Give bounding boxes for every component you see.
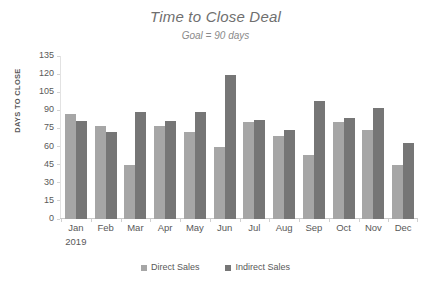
x-axis-labels: JanFebMarAprMayJunJulAugSepOctNovDec xyxy=(61,222,418,234)
y-tick-mark xyxy=(57,219,60,220)
y-tick-mark xyxy=(57,200,60,201)
bar-nov-indirect-sales xyxy=(373,108,384,219)
bar-group xyxy=(240,56,270,219)
bar-group xyxy=(388,56,418,219)
bar-dec-direct-sales xyxy=(392,165,403,219)
bar-aug-indirect-sales xyxy=(284,130,295,219)
bar-jan-indirect-sales xyxy=(76,121,87,219)
legend-label: Direct Sales xyxy=(151,262,200,273)
y-tick-label: 60 xyxy=(44,141,54,152)
bar-aug-direct-sales xyxy=(273,136,284,219)
legend-item-indirect-sales[interactable]: Indirect Sales xyxy=(225,262,290,273)
y-tick-label: 15 xyxy=(44,195,54,206)
legend-label: Indirect Sales xyxy=(235,262,290,273)
y-tick-mark xyxy=(57,146,60,147)
y-tick-mark xyxy=(57,56,60,57)
legend-item-direct-sales[interactable]: Direct Sales xyxy=(141,262,200,273)
y-tick-label: 135 xyxy=(39,50,54,61)
y-tick-label: 120 xyxy=(39,68,54,79)
bar-sep-direct-sales xyxy=(303,155,314,219)
x-axis-year-label: 2019 xyxy=(61,236,91,248)
x-axis-label-sep: Sep xyxy=(299,222,329,234)
plot-area: 1351201059075604530150 xyxy=(60,56,418,219)
y-tick-mark xyxy=(57,74,60,75)
bar-jan-direct-sales xyxy=(65,114,76,219)
bar-group xyxy=(61,56,91,219)
bar-may-indirect-sales xyxy=(195,112,206,219)
x-axis-label-jul: Jul xyxy=(240,222,270,234)
chart-container: Time to Close Deal Goal = 90 days DAYS T… xyxy=(0,0,431,288)
chart-title: Time to Close Deal xyxy=(0,8,431,26)
bar-sep-indirect-sales xyxy=(314,101,325,219)
x-axis-label-may: May xyxy=(180,222,210,234)
bar-oct-direct-sales xyxy=(333,122,344,219)
bar-apr-indirect-sales xyxy=(165,121,176,219)
bar-groups xyxy=(61,56,418,219)
bar-jun-indirect-sales xyxy=(225,75,236,219)
bar-group xyxy=(299,56,329,219)
bar-group xyxy=(210,56,240,219)
legend-swatch-icon xyxy=(225,265,231,271)
y-tick-label: 0 xyxy=(49,213,54,224)
bar-group xyxy=(269,56,299,219)
y-tick-label: 45 xyxy=(44,159,54,170)
y-tick-label: 30 xyxy=(44,177,54,188)
chart-subtitle: Goal = 90 days xyxy=(0,29,431,43)
bar-jul-direct-sales xyxy=(243,122,254,219)
x-axis-label-jan: Jan xyxy=(61,222,91,234)
x-axis-label-aug: Aug xyxy=(269,222,299,234)
y-tick-mark xyxy=(57,110,60,111)
y-tick-label: 105 xyxy=(39,86,54,97)
bar-oct-indirect-sales xyxy=(344,118,355,219)
bar-dec-indirect-sales xyxy=(403,143,414,219)
title-block: Time to Close Deal Goal = 90 days xyxy=(0,8,431,43)
x-axis-label-oct: Oct xyxy=(329,222,359,234)
bar-jul-indirect-sales xyxy=(254,120,265,219)
bar-apr-direct-sales xyxy=(154,126,165,219)
bar-group xyxy=(180,56,210,219)
y-tick-mark xyxy=(57,182,60,183)
bar-feb-indirect-sales xyxy=(106,132,117,219)
bar-feb-direct-sales xyxy=(95,126,106,219)
y-tick-label: 90 xyxy=(44,104,54,115)
x-axis-label-feb: Feb xyxy=(91,222,121,234)
bar-mar-indirect-sales xyxy=(135,112,146,219)
y-tick-mark xyxy=(57,92,60,93)
bar-group xyxy=(121,56,151,219)
bar-group xyxy=(359,56,389,219)
bar-group xyxy=(329,56,359,219)
y-tick-label: 75 xyxy=(44,122,54,133)
bar-group xyxy=(91,56,121,219)
x-axis-label-mar: Mar xyxy=(121,222,151,234)
x-axis-label-dec: Dec xyxy=(388,222,418,234)
legend-swatch-icon xyxy=(141,265,147,271)
y-tick-mark xyxy=(57,128,60,129)
y-tick-mark xyxy=(57,164,60,165)
x-axis-label-jun: Jun xyxy=(210,222,240,234)
bar-mar-direct-sales xyxy=(124,165,135,219)
x-axis-label-nov: Nov xyxy=(359,222,389,234)
chart-legend: Direct SalesIndirect Sales xyxy=(0,262,431,273)
bar-nov-direct-sales xyxy=(362,130,373,219)
y-axis-title: DAYS TO CLOSE xyxy=(13,46,22,156)
x-axis-label-apr: Apr xyxy=(150,222,180,234)
bar-may-direct-sales xyxy=(184,132,195,219)
bar-group xyxy=(150,56,180,219)
bar-jun-direct-sales xyxy=(214,147,225,219)
